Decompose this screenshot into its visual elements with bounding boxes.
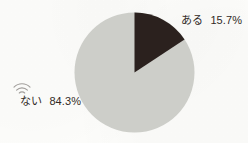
pie-label-nai-name: ない: [20, 95, 42, 107]
pie-label-aru-percent: 15.7%: [210, 14, 242, 26]
pie-chart-graphic: [74, 12, 195, 133]
pie-chart-figure: ある15.7% ない84.3%: [0, 0, 248, 143]
pie-label-aru-name: ある: [181, 14, 203, 26]
pie-label-nai: ない84.3%: [20, 95, 81, 108]
pie-label-aru: ある15.7%: [181, 14, 242, 27]
pie-label-nai-percent: 84.3%: [49, 95, 81, 107]
